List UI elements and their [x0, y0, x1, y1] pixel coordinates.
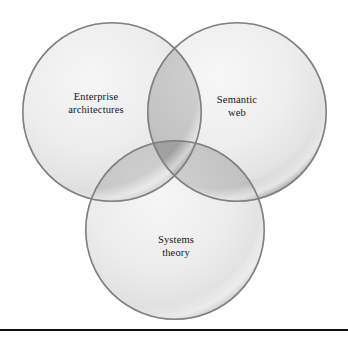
- venn-diagram-canvas: [0, 0, 348, 340]
- venn-diagram-figure: Enterprise architectures Semantic web Sy…: [0, 0, 348, 340]
- figure-bottom-rule: [0, 329, 348, 331]
